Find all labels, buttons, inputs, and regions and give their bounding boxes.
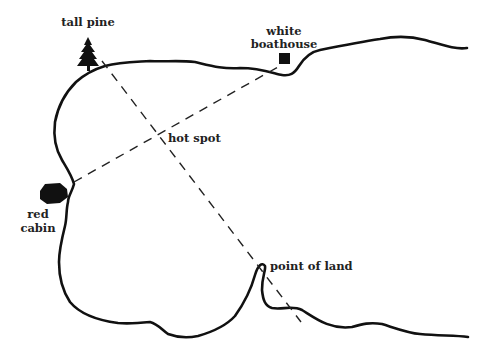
sight-line-pine-to-point xyxy=(102,61,301,322)
point-of-land-label: point of land xyxy=(270,259,353,273)
red-cabin-label-line1: red xyxy=(27,207,48,221)
white-boathouse-label-line2: boathouse xyxy=(251,37,318,51)
lake-map: tall pine white boathouse red cabin hot … xyxy=(0,0,493,359)
tall-pine-label: tall pine xyxy=(61,15,115,29)
cabin-icon xyxy=(40,183,68,204)
white-boathouse-label-line1: white xyxy=(265,24,301,38)
red-cabin-label-line2: cabin xyxy=(20,221,56,235)
hot-spot-label: hot spot xyxy=(168,131,222,145)
sight-line-cabin-to-boathouse xyxy=(74,67,278,182)
shoreline xyxy=(54,37,468,337)
square-icon xyxy=(279,53,290,64)
pine-tree-icon xyxy=(77,37,99,71)
